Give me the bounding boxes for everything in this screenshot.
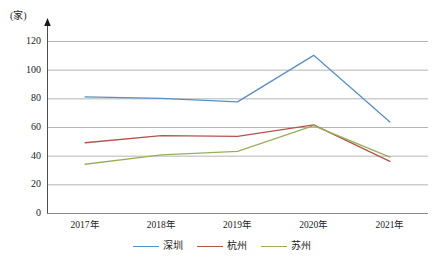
legend-swatch-icon [133, 246, 159, 247]
y-tick-label: 60 [11, 122, 41, 132]
x-tick-label: 2018年 [131, 220, 191, 231]
gridlines [47, 42, 428, 214]
x-tick-label: 2020年 [284, 220, 344, 231]
legend-label: 杭州 [227, 240, 247, 252]
axes [44, 18, 428, 214]
series-lines [85, 55, 390, 164]
y-tick-label: 80 [11, 93, 41, 103]
line-chart: (家) 020406080100120 2017年2018年2019年2020年… [0, 0, 443, 265]
chart-legend: 深圳杭州苏州 [0, 240, 443, 252]
x-tick-label: 2017年 [55, 220, 115, 231]
legend-item-2[interactable]: 苏州 [261, 240, 311, 252]
legend-item-1[interactable]: 杭州 [197, 240, 247, 252]
y-tick-label: 0 [11, 208, 41, 218]
y-tick-label: 100 [11, 65, 41, 75]
legend-label: 深圳 [163, 240, 183, 252]
x-tick-label: 2021年 [360, 220, 420, 231]
legend-swatch-icon [261, 246, 287, 247]
legend-label: 苏州 [291, 240, 311, 252]
series-line-0 [85, 55, 390, 122]
y-tick-label: 20 [11, 179, 41, 189]
series-line-2 [85, 126, 390, 165]
y-axis-arrow-icon [44, 18, 51, 26]
legend-swatch-icon [197, 246, 223, 247]
x-tick-label: 2019年 [208, 220, 268, 231]
legend-item-0[interactable]: 深圳 [133, 240, 183, 252]
y-tick-label: 120 [11, 36, 41, 46]
y-tick-label: 40 [11, 151, 41, 161]
